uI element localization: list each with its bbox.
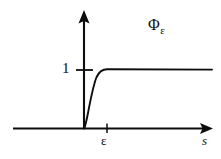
y-tick-label-one: 1	[62, 61, 70, 76]
plot-canvas	[0, 0, 221, 159]
x-axis-label-s: s	[202, 134, 207, 147]
function-label-base: Φ	[148, 16, 160, 33]
function-label-phi-epsilon: Φε	[148, 17, 165, 36]
phi-epsilon-curve	[84, 69, 212, 128]
function-plot-figure: 1 ε s Φε	[0, 0, 221, 159]
x-tick-label-epsilon: ε	[101, 134, 106, 147]
function-label-subscript: ε	[160, 24, 165, 36]
